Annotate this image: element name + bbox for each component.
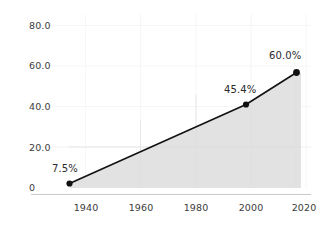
x-tick-label-1960: 1960 bbox=[119, 202, 163, 213]
x-tick-label-2000: 2000 bbox=[229, 202, 273, 213]
y-tick-label-80: 80.0 bbox=[29, 20, 51, 31]
data-label-60-0: 60.0% bbox=[269, 50, 301, 61]
line-chart: 80.0 60.0 40.0 20.0 0 1940 1960 1980 200… bbox=[0, 0, 329, 232]
data-label-45-4: 45.4% bbox=[224, 84, 256, 95]
y-tick-label-40: 40.0 bbox=[29, 101, 51, 112]
data-point-marker[interactable] bbox=[66, 180, 72, 186]
y-tick-label-20: 20.0 bbox=[29, 142, 51, 153]
x-tick-label-2020: 2020 bbox=[282, 202, 326, 213]
y-tick-label-0: 0 bbox=[29, 182, 35, 193]
chart-plot-area bbox=[0, 0, 329, 232]
data-label-7-5: 7.5% bbox=[52, 163, 78, 174]
data-point-marker[interactable] bbox=[243, 101, 249, 107]
data-point-marker[interactable] bbox=[293, 69, 300, 76]
x-tick-label-1980: 1980 bbox=[174, 202, 218, 213]
x-tick-label-1940: 1940 bbox=[64, 202, 108, 213]
y-tick-label-60: 60.0 bbox=[29, 60, 51, 71]
